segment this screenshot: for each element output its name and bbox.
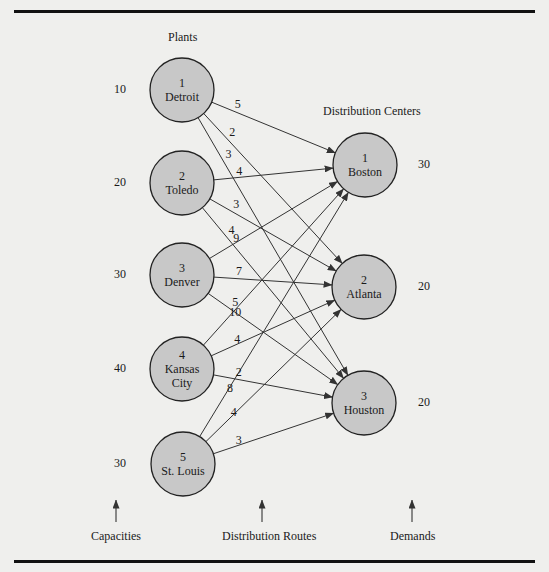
capacity-value: 10	[114, 82, 126, 97]
route-cost-label: 2	[229, 125, 235, 139]
plant-name: Denver	[164, 275, 199, 289]
capacity-value: 30	[114, 267, 126, 282]
plant-name: St. Louis	[161, 464, 205, 478]
plant-number: 3	[179, 261, 185, 275]
center-node-boston: 1Boston	[333, 133, 397, 197]
plant-node-denver: 3Denver	[150, 243, 214, 307]
route-arrow-plant5-center2	[206, 309, 341, 441]
capacities-label: Capacities	[91, 529, 141, 544]
center-number: 3	[361, 389, 367, 403]
route-arrow-plant5-center1	[200, 192, 349, 436]
demand-value: 20	[418, 395, 430, 410]
center-name: Boston	[348, 165, 382, 179]
plant-number: 1	[179, 76, 185, 90]
route-cost-label: 8	[227, 381, 233, 395]
center-number: 2	[361, 273, 367, 287]
route-cost-label: 3	[226, 147, 232, 161]
route-arrow-plant5-center3	[213, 413, 333, 454]
distribution-routes-label: Distribution Routes	[222, 529, 316, 544]
demand-value: 20	[418, 279, 430, 294]
route-costs: 5234349751042843	[226, 97, 243, 447]
plant-number: 4	[179, 348, 185, 362]
capacity-value: 30	[114, 456, 126, 471]
demands-label: Demands	[390, 529, 435, 544]
route-arrow-plant3-center2	[214, 277, 332, 285]
plant-node-detroit: 1Detroit	[150, 58, 214, 122]
plant-name: City	[172, 376, 193, 390]
plant-node-st-louis: 5St. Louis	[151, 432, 215, 496]
route-cost-label: 9	[233, 231, 239, 245]
route-arrow-plant1-center2	[204, 114, 343, 264]
route-arrow-plant4-center1	[203, 189, 343, 345]
route-cost-label: 3	[233, 197, 239, 211]
center-node-houston: 3Houston	[332, 371, 396, 435]
center-number: 1	[362, 151, 368, 165]
route-cost-label: 5	[235, 97, 241, 111]
plant-name: Detroit	[165, 90, 200, 104]
plant-name: Kansas	[165, 362, 200, 376]
plant-node-kansas-city: 4KansasCity	[150, 337, 214, 401]
footer-arrows	[116, 500, 412, 522]
route-arrow-plant1-center3	[198, 118, 348, 376]
center-name: Houston	[344, 403, 385, 417]
route-cost-label: 10	[229, 305, 241, 319]
route-cost-label: 4	[234, 332, 240, 346]
capacity-value: 40	[114, 361, 126, 376]
distribution-routes	[198, 102, 348, 454]
route-cost-label: 4	[236, 164, 242, 178]
route-arrow-plant2-center3	[202, 208, 343, 379]
route-cost-label: 3	[236, 433, 242, 447]
capacity-value: 20	[114, 175, 126, 190]
route-arrow-plant2-center1	[214, 168, 333, 180]
center-node-atlanta: 2Atlanta	[332, 255, 396, 319]
route-cost-label: 4	[231, 405, 237, 419]
plant-number: 2	[179, 169, 185, 183]
route-cost-label: 7	[236, 264, 242, 278]
nodes: 1Detroit2Toledo3Denver4KansasCity5St. Lo…	[150, 58, 397, 496]
transportation-network-diagram: 5234349751042843 1Detroit2Toledo3Denver4…	[0, 0, 549, 572]
center-name: Atlanta	[346, 287, 382, 301]
demand-value: 30	[418, 157, 430, 172]
route-cost-label: 2	[236, 365, 242, 379]
plant-number: 5	[180, 450, 186, 464]
plant-name: Toledo	[165, 183, 198, 197]
plant-node-toledo: 2Toledo	[150, 151, 214, 215]
